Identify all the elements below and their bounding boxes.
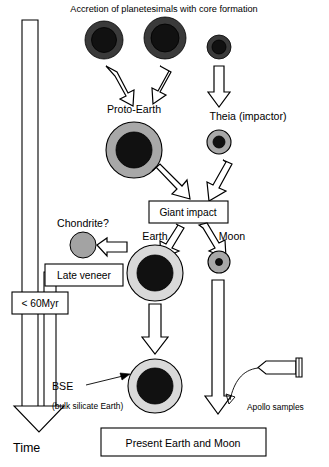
diagram-title: Accretion of planetesimals with core for… <box>70 4 257 14</box>
proto-earth-label: Proto-Earth <box>107 103 161 115</box>
diagram-canvas: Accretion of planetesimals with core for… <box>0 0 329 467</box>
bse-earth-body <box>128 359 182 413</box>
planetesimal-3 <box>207 35 231 59</box>
apollo-samples-label: Apollo samples <box>247 402 304 412</box>
moon-body <box>208 251 230 273</box>
planetary-formation-diagram: Accretion of planetesimals with core for… <box>0 0 329 467</box>
earth-core <box>137 255 173 291</box>
bse-core <box>137 368 173 404</box>
time-arrow-shaft-primary <box>22 20 38 408</box>
planetesimal-1 <box>85 21 123 59</box>
theia-core <box>213 136 225 148</box>
bse-abbr-label: BSE <box>52 380 73 392</box>
apollo-spacecraft-icon <box>258 358 302 377</box>
proto-earth-to-impact-arrow <box>152 164 190 199</box>
earth-body <box>127 245 183 301</box>
planetesimal-1-core <box>92 28 117 53</box>
earth-to-bse-arrow <box>142 304 168 354</box>
theia-label: Theia (impactor) <box>209 110 286 122</box>
earth-label: Earth <box>142 230 167 242</box>
timescale-label: < 60Myr <box>21 298 59 309</box>
chondrite-label: Chondrite? <box>57 217 109 229</box>
chondrite-to-earth-arrow <box>97 238 127 256</box>
accretion-arrow-3 <box>208 66 230 107</box>
planetesimal-2-core <box>151 24 179 52</box>
giant-impact-label: Giant impact <box>159 207 216 218</box>
planetesimal-3-core <box>212 40 226 54</box>
spacecraft-body <box>258 361 296 374</box>
proto-earth-core <box>116 132 152 168</box>
accretion-arrow-2 <box>152 66 171 104</box>
moon-core <box>216 259 223 266</box>
theia-to-impact-arrow <box>207 160 232 201</box>
accretion-arrow-1 <box>106 66 134 106</box>
planetesimal-2 <box>144 17 186 59</box>
late-veneer-label: Late veneer <box>57 270 111 281</box>
present-earth-moon-label: Present Earth and Moon <box>126 437 241 449</box>
time-axis-label: Time <box>13 441 40 455</box>
theia-body <box>207 130 231 154</box>
apollo-sample-curve <box>230 368 258 400</box>
chondrite-body <box>70 232 96 258</box>
moon-label: Moon <box>219 230 246 242</box>
bse-full-label: (bulk silicate Earth) <box>52 401 123 411</box>
